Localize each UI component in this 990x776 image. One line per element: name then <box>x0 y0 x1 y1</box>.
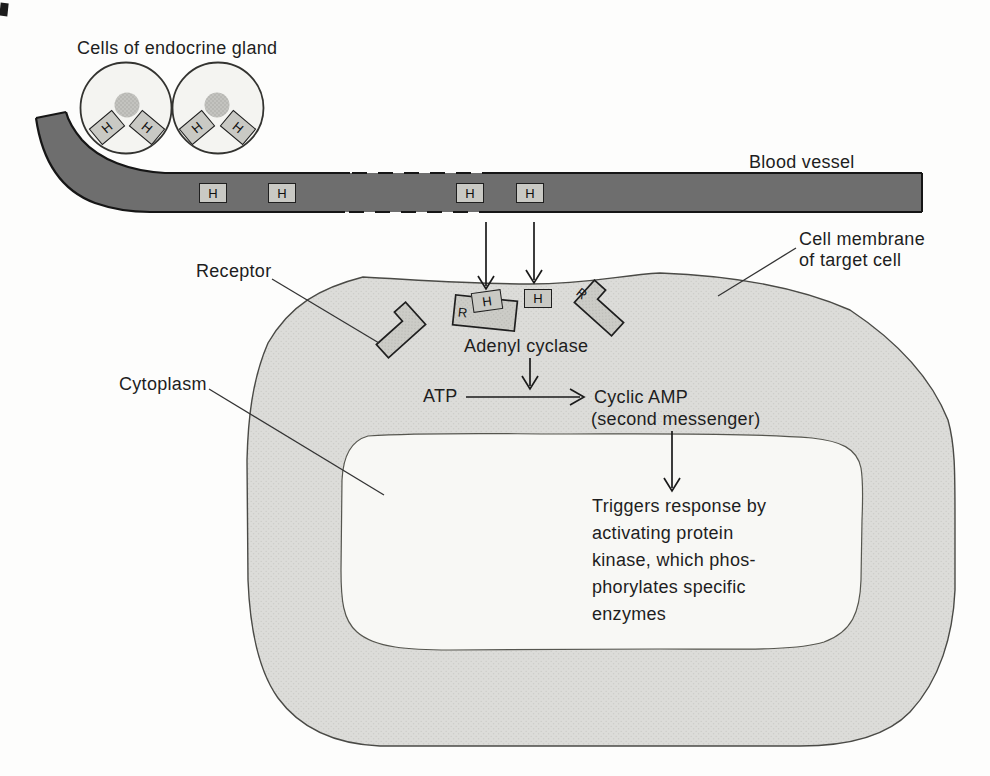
label-cyclic-amp: Cyclic AMP <box>594 387 688 408</box>
response-line: phorylates specific <box>592 574 787 601</box>
label-adenyl-cyclase: Adenyl cyclase <box>464 336 588 357</box>
hormone-letter: H <box>465 186 474 201</box>
nucleus <box>115 93 140 118</box>
label-cell-membrane-line1: Cell membrane <box>799 229 925 250</box>
hormone-box-free: H <box>524 289 552 308</box>
hormone-letter: H <box>481 293 492 309</box>
hormone-box: H <box>516 183 544 203</box>
receptor-letter: R <box>457 305 468 321</box>
nucleus <box>205 93 230 118</box>
label-blood-vessel: Blood vessel <box>749 152 855 173</box>
hormone-letter: H <box>525 186 534 201</box>
response-line: enzymes <box>592 601 787 628</box>
label-response-text: Triggers response by activating protein … <box>592 493 787 628</box>
label-receptor: Receptor <box>196 261 271 282</box>
label-atp: ATP <box>423 386 458 407</box>
label-cytoplasm: Cytoplasm <box>119 374 207 395</box>
label-cell-membrane-line2: of target cell <box>799 250 925 271</box>
scan-artifact <box>0 3 9 17</box>
label-second-messenger: (second messenger) <box>591 409 760 430</box>
hormone-letter: H <box>277 186 286 201</box>
hormone-letter: H <box>208 186 217 201</box>
label-cell-membrane: Cell membrane of target cell <box>799 229 925 271</box>
hormone-letter: H <box>99 119 116 137</box>
hormone-letter: H <box>533 291 542 306</box>
hormone-letter: H <box>139 119 156 137</box>
response-line: Triggers response by <box>592 493 787 520</box>
hormone-letter: H <box>189 119 206 137</box>
hormone-box-bound: H <box>471 289 503 313</box>
response-line: activating protein <box>592 520 787 547</box>
hormone-letter: H <box>230 119 247 137</box>
diagram-endocrine-signaling: H H H H H H H H H H R R Cells of endocri… <box>0 0 990 776</box>
label-endocrine-gland: Cells of endocrine gland <box>77 38 277 59</box>
hormone-box: H <box>456 183 484 203</box>
hormone-box: H <box>268 183 296 203</box>
response-line: kinase, which phos- <box>592 547 787 574</box>
hormone-box: H <box>199 183 227 203</box>
